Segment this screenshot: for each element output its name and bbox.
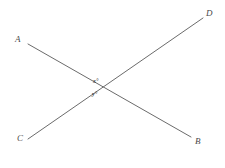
vertex-label-a: A [15, 35, 21, 44]
geometry-figure: A D C B x° y° [0, 0, 225, 168]
angle-label-y: y° [92, 91, 97, 97]
vertex-label-c: C [17, 134, 23, 143]
vertex-label-d: D [206, 9, 213, 18]
figure-canvas [0, 0, 225, 168]
angle-label-x: x° [93, 78, 98, 84]
line-segment-ab [28, 44, 191, 137]
line-segment-cd [28, 18, 203, 139]
vertex-label-b: B [195, 137, 201, 146]
